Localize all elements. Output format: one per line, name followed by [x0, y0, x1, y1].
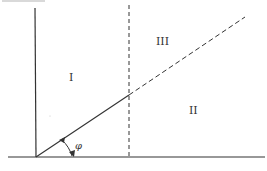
slanted-line-solid [36, 95, 129, 157]
region-label-3: III [156, 35, 169, 48]
vertical-axis [35, 8, 36, 157]
angle-arrowhead-top-icon [59, 137, 65, 143]
angle-label: φ [75, 140, 82, 151]
speck [50, 116, 51, 117]
region-label-1: I [69, 71, 73, 84]
region-label-2: II [189, 104, 198, 117]
diagram-canvas: I III II φ [0, 0, 267, 171]
slanted-line-dashed [129, 17, 245, 95]
